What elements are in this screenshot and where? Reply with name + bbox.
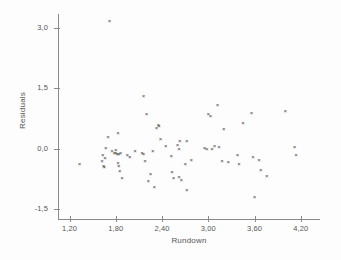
x-tick-label: 3,60 <box>235 224 275 233</box>
data-point <box>176 146 182 152</box>
data-point <box>147 171 153 177</box>
x-tick-mark <box>301 216 302 222</box>
data-point <box>250 154 256 160</box>
data-point <box>225 159 231 165</box>
data-point <box>184 187 190 193</box>
data-point <box>115 130 121 136</box>
x-tick-mark <box>255 216 256 222</box>
data-point <box>282 108 288 114</box>
x-tick-mark <box>162 216 163 222</box>
data-point <box>155 122 161 128</box>
data-point <box>168 153 174 159</box>
x-tick-label: 4,20 <box>281 224 321 233</box>
data-point <box>264 173 270 179</box>
y-axis-line <box>58 14 59 219</box>
data-point <box>178 177 184 183</box>
data-point <box>163 143 169 149</box>
data-point <box>248 110 254 116</box>
data-point <box>107 18 113 24</box>
y-tick-mark <box>54 28 60 29</box>
data-point <box>144 111 150 117</box>
data-point <box>252 194 258 200</box>
data-point <box>258 167 264 173</box>
data-point <box>240 120 246 126</box>
y-tick-mark <box>54 149 60 150</box>
data-point <box>236 161 242 167</box>
data-point <box>182 161 188 167</box>
data-point <box>157 136 163 142</box>
data-point <box>208 113 214 119</box>
x-axis-title: Rundown <box>58 236 320 245</box>
y-tick-label: 3,0 <box>14 23 48 32</box>
data-point <box>119 175 125 181</box>
x-tick-mark <box>208 216 209 222</box>
x-tick-label: 1,80 <box>96 224 136 233</box>
data-point <box>117 168 123 174</box>
data-point <box>101 164 107 170</box>
data-point <box>141 151 147 157</box>
data-point <box>105 134 111 140</box>
x-tick-label: 2,40 <box>142 224 182 233</box>
data-point <box>142 158 148 164</box>
y-tick-mark <box>54 88 60 89</box>
data-point <box>145 178 151 184</box>
data-point <box>113 147 119 153</box>
data-point <box>177 138 183 144</box>
data-point <box>151 184 157 190</box>
x-tick-label: 1,20 <box>50 224 90 233</box>
data-point <box>215 102 221 108</box>
data-point <box>184 138 190 144</box>
x-tick-label: 3,00 <box>188 224 228 233</box>
data-point <box>221 126 227 132</box>
data-point <box>132 148 138 154</box>
data-point <box>188 157 194 163</box>
data-point <box>292 144 298 150</box>
data-point <box>219 158 225 164</box>
x-tick-mark <box>70 216 71 222</box>
data-point <box>141 93 147 99</box>
scatter-plot: 3,01,50,0-1,5 1,201,802,403,003,604,20 R… <box>0 0 341 260</box>
data-point <box>256 157 262 163</box>
y-axis-title: Residuals <box>18 71 27 151</box>
y-tick-mark <box>54 209 60 210</box>
data-point <box>103 145 109 151</box>
data-point <box>216 144 222 150</box>
data-point <box>293 152 299 158</box>
data-point <box>77 161 83 167</box>
x-axis-line <box>58 219 320 220</box>
y-tick-label: -1,5 <box>14 204 48 213</box>
data-point <box>150 148 156 154</box>
data-point <box>235 152 241 158</box>
data-point <box>127 154 133 160</box>
x-tick-mark <box>116 216 117 222</box>
